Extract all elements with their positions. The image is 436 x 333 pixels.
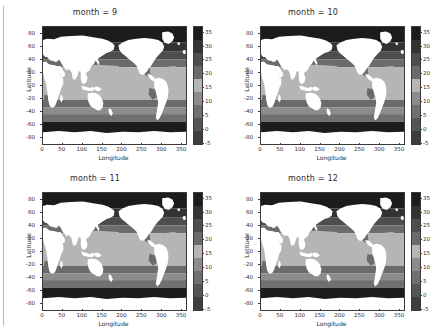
colorbar-segment	[194, 105, 202, 118]
x-tick-label: 150	[314, 312, 325, 318]
y-tick-label: 0	[250, 248, 254, 254]
y-tick-mark	[40, 59, 42, 60]
colorbar-tick-label: -5	[205, 140, 210, 146]
y-tick-mark	[258, 59, 260, 60]
x-tick-label: 300	[374, 312, 385, 318]
colorbar-segment	[194, 284, 202, 297]
x-tick-mark	[339, 143, 340, 145]
colorbar-tick-label: 10	[205, 264, 212, 270]
colorbar	[411, 192, 421, 311]
y-tick-mark	[258, 111, 260, 112]
x-tick-mark	[339, 309, 340, 311]
colorbar-segment	[412, 284, 420, 297]
colorbar-tick-mark	[202, 59, 204, 60]
colorbar-tick-mark	[420, 143, 422, 144]
colorbar-tick-label: -5	[205, 306, 210, 312]
colorbar-tick-label: 20	[423, 236, 430, 242]
colorbar-tick-label: 35	[205, 29, 212, 35]
colorbar-tick-mark	[202, 212, 204, 213]
colorbar-tick-mark	[420, 46, 422, 47]
x-tick-mark	[161, 309, 162, 311]
y-tick-mark	[40, 33, 42, 34]
y-tick-mark	[258, 277, 260, 278]
colorbar-tick-mark	[202, 309, 204, 310]
colorbar-segment	[412, 219, 420, 232]
y-tick-mark	[40, 137, 42, 138]
colorbar-tick-mark	[202, 239, 204, 240]
map-axes	[260, 26, 405, 145]
x-tick-mark	[399, 309, 400, 311]
colorbar-segment	[412, 131, 420, 144]
y-tick-mark	[40, 251, 42, 252]
y-tick-mark	[40, 225, 42, 226]
y-tick-mark	[258, 124, 260, 125]
colorbar-tick-mark	[420, 212, 422, 213]
y-axis-label: Latitude	[25, 196, 32, 296]
colorbar-tick-mark	[202, 281, 204, 282]
x-axis-label: Longitude	[260, 154, 403, 161]
colorbar-tick-mark	[202, 46, 204, 47]
x-tick-mark	[82, 143, 83, 145]
colorbar-tick-label: 35	[423, 195, 430, 201]
colorbar-segment	[194, 40, 202, 53]
colorbar-tick-mark	[202, 143, 204, 144]
x-tick-mark	[82, 309, 83, 311]
y-tick-mark	[40, 199, 42, 200]
colorbar-tick-mark	[420, 309, 422, 310]
x-tick-mark	[379, 309, 380, 311]
colorbar-segment	[194, 92, 202, 105]
y-tick-mark	[40, 277, 42, 278]
x-tick-label: 50	[58, 312, 65, 318]
y-axis-label-box: Latitude	[18, 26, 28, 143]
y-tick-mark	[258, 46, 260, 47]
colorbar-tick-mark	[420, 101, 422, 102]
y-tick-mark	[258, 72, 260, 73]
subplot-panel: month = 9 806040200-20-40-60-80 Latitude…	[0, 0, 218, 166]
colorbar-tick-mark	[420, 267, 422, 268]
colorbar-tick-mark	[202, 129, 204, 130]
x-axis-label: Longitude	[42, 154, 185, 161]
colorbar-segment	[412, 232, 420, 245]
colorbar-tick-mark	[420, 32, 422, 33]
x-tick-mark	[102, 309, 103, 311]
x-tick-mark	[260, 143, 261, 145]
x-tick-mark	[181, 309, 182, 311]
y-axis-label-box: Latitude	[18, 192, 28, 309]
x-tick-mark	[102, 143, 103, 145]
colorbar-tick-label: 25	[423, 222, 430, 228]
y-tick-mark	[40, 111, 42, 112]
x-tick-label: 300	[374, 146, 385, 152]
colorbar-tick-mark	[420, 59, 422, 60]
colorbar	[193, 26, 203, 145]
y-tick-mark	[258, 290, 260, 291]
panel-title: month = 11	[0, 174, 190, 183]
colorbar-segment	[412, 53, 420, 66]
panel-title: month = 9	[0, 8, 190, 17]
x-tick-label: 300	[156, 146, 167, 152]
y-tick-mark	[40, 98, 42, 99]
x-tick-label: 300	[156, 312, 167, 318]
colorbar-segment	[194, 232, 202, 245]
map-axes	[260, 192, 405, 311]
colorbar-tick-mark	[420, 225, 422, 226]
subplot-panel: month = 10 806040200-20-40-60-80 Latitud…	[218, 0, 436, 166]
x-tick-mark	[280, 143, 281, 145]
colorbar-tick-label: 10	[423, 264, 430, 270]
figure-canvas: month = 9 806040200-20-40-60-80 Latitude…	[0, 0, 436, 333]
colorbar-segment	[194, 206, 202, 219]
x-tick-mark	[141, 143, 142, 145]
colorbar-tick-mark	[202, 32, 204, 33]
colorbar-tick-label: 5	[205, 278, 209, 284]
y-axis-label: Latitude	[243, 196, 250, 296]
colorbar-tick-label: 30	[423, 209, 430, 215]
colorbar-tick-label: 10	[423, 98, 430, 104]
sst-map	[261, 27, 404, 144]
colorbar-tick-mark	[202, 115, 204, 116]
colorbar-tick-mark	[420, 253, 422, 254]
y-tick-mark	[40, 85, 42, 86]
y-tick-label: 0	[32, 248, 36, 254]
y-tick-label: 0	[250, 82, 254, 88]
colorbar-tick-mark	[202, 87, 204, 88]
y-tick-mark	[40, 212, 42, 213]
x-tick-mark	[359, 309, 360, 311]
